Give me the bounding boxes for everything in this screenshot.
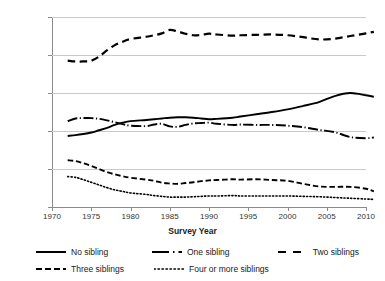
- x-tick-mark: [366, 207, 367, 211]
- x-tick-label: 1980: [111, 213, 151, 221]
- chart-legend: No sibling One sibling Two siblings T: [36, 243, 376, 277]
- series-line-three-siblings: [68, 160, 374, 191]
- x-tick-label: 2010: [346, 213, 385, 221]
- x-tick-mark: [91, 207, 92, 211]
- legend-label-two-siblings: Two siblings: [313, 247, 359, 257]
- legend-item-no-sibling: No sibling: [36, 247, 152, 257]
- legend-swatch-one-sibling: [152, 247, 182, 257]
- x-tick-mark: [209, 207, 210, 211]
- legend-item-three-siblings: Three siblings: [36, 264, 154, 274]
- series-line-two-siblings: [68, 30, 374, 62]
- legend-row-2: Three siblings Four or more siblings: [36, 260, 376, 277]
- x-tick-mark: [327, 207, 328, 211]
- x-tick-mark: [288, 207, 289, 211]
- legend-swatch-no-sibling: [36, 247, 66, 257]
- plot-area: [52, 17, 366, 207]
- legend-item-one-sibling: One sibling: [152, 247, 278, 257]
- legend-label-one-sibling: One sibling: [187, 247, 230, 257]
- x-tick-label: 1975: [71, 213, 111, 221]
- x-tick-mark: [52, 207, 53, 211]
- x-tick-label: 2000: [268, 213, 308, 221]
- legend-label-three-siblings: Three siblings: [71, 264, 124, 274]
- x-tick-label: 1970: [32, 213, 72, 221]
- series-layer: [52, 17, 366, 207]
- legend-label-no-sibling: No sibling: [71, 247, 108, 257]
- x-tick-mark: [248, 207, 249, 211]
- x-tick-label: 1985: [150, 213, 190, 221]
- x-tick-mark: [131, 207, 132, 211]
- legend-item-two-siblings: Two siblings: [278, 247, 376, 257]
- x-tick-label: 2005: [307, 213, 347, 221]
- x-axis-title: Survey Year: [0, 226, 385, 236]
- legend-swatch-three-siblings: [36, 264, 66, 274]
- legend-item-four-or-more-siblings: Four or more siblings: [154, 264, 334, 274]
- series-line-one-sibling: [68, 118, 374, 138]
- x-tick-label: 1990: [189, 213, 229, 221]
- legend-swatch-four-or-more-siblings: [154, 264, 184, 274]
- series-line-no-sibling: [68, 93, 374, 136]
- sibling-percentage-line-chart: Per Cent 01020304050 1970197519801985199…: [0, 0, 385, 281]
- x-tick-mark: [170, 207, 171, 211]
- x-tick-label: 1995: [228, 213, 268, 221]
- series-line-four-or-more-siblings: [68, 177, 374, 200]
- legend-swatch-two-siblings: [278, 247, 308, 257]
- legend-label-four-or-more-siblings: Four or more siblings: [189, 264, 269, 274]
- legend-row-1: No sibling One sibling Two siblings: [36, 243, 376, 260]
